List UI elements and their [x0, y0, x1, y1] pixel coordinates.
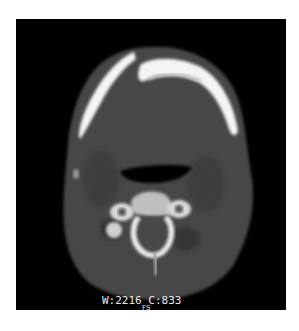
ct-slice-image [16, 19, 286, 310]
ct-scan-panel: W:2216 C:833 FS [16, 19, 286, 310]
series-marker-label: FS [142, 304, 150, 310]
